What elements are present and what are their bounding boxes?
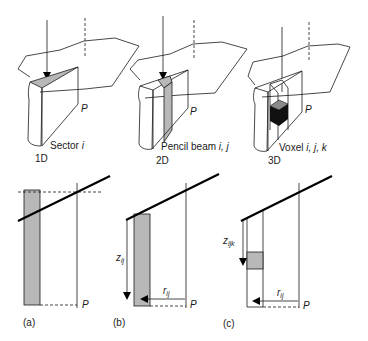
patient-surface-line [241, 176, 332, 221]
patient-surface-outline [130, 42, 247, 98]
caption-a: (a) [23, 317, 35, 328]
element-label: Sector i [50, 140, 85, 151]
point-p-label: P [190, 299, 197, 310]
dimension-label: 1D [35, 153, 48, 164]
panel-b: zij rij P (b) [113, 174, 219, 328]
dose-calculation-diagram: P Sector i 1D P Pencil beam i, j 2D [0, 0, 368, 341]
prism-left-edge [254, 88, 269, 151]
radius-label: rij [277, 287, 284, 300]
pencil-beam-column [164, 82, 172, 142]
element-label: Voxel i, j, k [279, 142, 328, 153]
panel-c: zijk rij P (c) [222, 176, 332, 329]
shaded-column [24, 190, 40, 305]
element-label: Pencil beam i, j [161, 141, 230, 152]
prism-left-edge [139, 86, 154, 149]
panel-pencil-beam-2d: P Pencil beam i, j 2D [130, 16, 247, 166]
prism-left-edge [28, 82, 42, 146]
point-p-label: P [305, 104, 312, 115]
depth-label: zijk [222, 235, 235, 248]
voxel-box [247, 252, 263, 269]
caption-c: (c) [223, 318, 235, 329]
panel-sector-1d: P Sector i 1D [18, 18, 139, 164]
point-p-label: P [190, 106, 197, 117]
depth-label: zij [115, 252, 125, 265]
dimension-label: 3D [268, 155, 281, 166]
caption-b: (b) [113, 317, 125, 328]
pencil-beam-column [134, 214, 150, 306]
point-p-label: P [82, 299, 89, 310]
point-p-label: P [303, 300, 310, 311]
radius-label: rij [163, 285, 170, 298]
patient-surface-line [126, 174, 219, 220]
sector-wedge-top [30, 67, 78, 88]
point-p-label: P [81, 103, 88, 114]
panel-a: P (a) [18, 176, 110, 328]
dimension-label: 2D [156, 155, 169, 166]
panel-voxel-3d: P Voxel i, j, k 3D [248, 22, 350, 166]
